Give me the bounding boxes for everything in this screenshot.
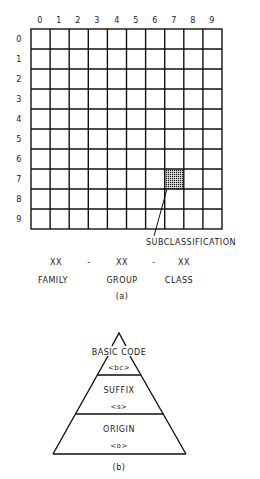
row-label: 8 bbox=[16, 195, 22, 204]
row-label: 1 bbox=[16, 55, 22, 64]
code-pyramid: BASIC CODE <bc> SUFFIX <s> ORIGIN <o> (b… bbox=[53, 333, 186, 472]
col-label: 7 bbox=[171, 16, 177, 25]
row-label: 0 bbox=[16, 35, 22, 44]
pyramid-apex bbox=[112, 333, 126, 346]
col-label: 6 bbox=[152, 16, 158, 25]
separator: - bbox=[152, 258, 155, 267]
layer-symbol-o: <o> bbox=[110, 442, 128, 450]
row-label: 9 bbox=[16, 215, 22, 224]
code-format: XX - XX - XX FAMILY GROUP CLASS (a) bbox=[38, 258, 193, 301]
row-label: 3 bbox=[16, 95, 22, 104]
grid-10x10 bbox=[31, 29, 222, 229]
layer-name-origin: ORIGIN bbox=[103, 425, 135, 434]
group-code: XX bbox=[116, 258, 128, 267]
caption-a: (a) bbox=[116, 292, 129, 301]
layer-name-basic-code: BASIC CODE bbox=[92, 348, 147, 357]
separator: - bbox=[87, 258, 90, 267]
layer-symbol-bc: <bc> bbox=[108, 364, 130, 372]
caption-b: (b) bbox=[113, 463, 126, 472]
class-label: CLASS bbox=[165, 276, 193, 285]
col-label: 0 bbox=[37, 16, 43, 25]
col-label: 3 bbox=[94, 16, 100, 25]
family-label: FAMILY bbox=[38, 276, 68, 285]
row-label: 2 bbox=[16, 75, 22, 84]
highlighted-cell bbox=[165, 170, 184, 190]
column-labels: 0 1 2 3 4 5 6 7 8 9 bbox=[37, 16, 215, 25]
classification-diagram: 0 1 2 3 4 5 6 7 8 9 0 1 2 3 4 5 6 7 8 9 bbox=[0, 0, 260, 479]
row-label: 4 bbox=[16, 115, 22, 124]
family-code: XX bbox=[50, 258, 62, 267]
layer-name-suffix: SUFFIX bbox=[104, 386, 135, 395]
col-label: 5 bbox=[133, 16, 139, 25]
group-label: GROUP bbox=[106, 276, 137, 285]
row-label: 5 bbox=[16, 135, 22, 144]
col-label: 9 bbox=[209, 16, 215, 25]
class-code: XX bbox=[178, 258, 190, 267]
col-label: 4 bbox=[114, 16, 120, 25]
col-label: 2 bbox=[75, 16, 81, 25]
col-label: 8 bbox=[190, 16, 196, 25]
row-label: 7 bbox=[16, 175, 22, 184]
subclassification-label: SUBCLASSIFICATION bbox=[146, 238, 236, 247]
col-label: 1 bbox=[56, 16, 62, 25]
layer-symbol-s: <s> bbox=[111, 403, 128, 411]
row-labels: 0 1 2 3 4 5 6 7 8 9 bbox=[16, 35, 22, 224]
row-label: 6 bbox=[16, 155, 22, 164]
